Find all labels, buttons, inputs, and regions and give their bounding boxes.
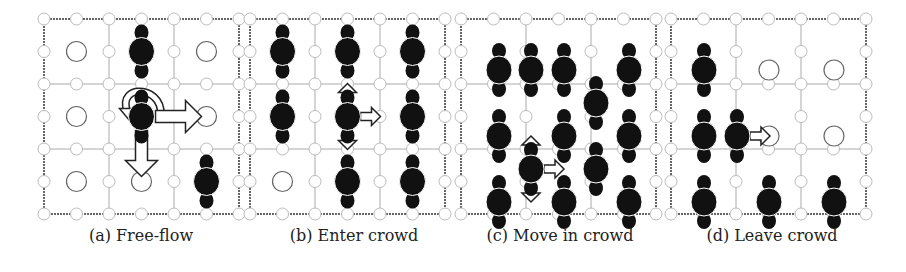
person-body <box>616 56 642 84</box>
node-circle <box>374 176 386 188</box>
node-circle <box>520 111 532 123</box>
node-circle <box>277 143 289 155</box>
node-circle <box>439 46 451 58</box>
node-circle <box>277 13 289 25</box>
node-circle <box>730 13 742 25</box>
person-body <box>616 122 642 150</box>
node-circle <box>795 46 807 58</box>
node-circle <box>233 111 245 123</box>
person-body <box>518 155 544 183</box>
node-circle <box>309 46 321 58</box>
empty-cell-circle <box>197 42 217 62</box>
node-circle <box>233 78 245 90</box>
node-circle <box>103 111 115 123</box>
node-circle <box>520 208 532 220</box>
node-circle <box>650 111 662 123</box>
node-circle <box>828 13 840 25</box>
node-circle <box>455 78 467 90</box>
node-circle <box>277 78 289 90</box>
empty-cell-circle <box>824 60 844 80</box>
node-circle <box>38 13 50 25</box>
caption-d: (d) Leave crowd <box>672 226 872 245</box>
node-circle <box>665 13 677 25</box>
node-circle <box>374 46 386 58</box>
node-circle <box>342 208 354 220</box>
person-body <box>616 188 642 216</box>
node-circle <box>795 111 807 123</box>
node-circle <box>38 143 50 155</box>
empty-cell-circle <box>759 60 779 80</box>
node-circle <box>618 13 630 25</box>
node-circle <box>455 143 467 155</box>
node-circle <box>38 46 50 58</box>
node-circle <box>795 208 807 220</box>
node-circle <box>860 176 872 188</box>
node-circle <box>244 176 256 188</box>
node-circle <box>650 78 662 90</box>
node-circle <box>38 78 50 90</box>
node-circle <box>439 111 451 123</box>
node-circle <box>309 111 321 123</box>
node-circle <box>650 46 662 58</box>
caption-a: (a) Free-flow <box>41 226 241 245</box>
node-circle <box>233 176 245 188</box>
node-circle <box>244 46 256 58</box>
panel-a <box>38 13 245 220</box>
node-circle <box>488 13 500 25</box>
person-icon <box>551 109 577 163</box>
person-icon <box>335 90 361 144</box>
node-circle <box>103 46 115 58</box>
node-circle <box>309 208 321 220</box>
node-circle <box>136 13 148 25</box>
person-body <box>129 103 155 131</box>
person-icon <box>691 175 717 229</box>
person-body <box>270 103 296 131</box>
node-circle <box>795 176 807 188</box>
node-circle <box>103 13 115 25</box>
node-circle <box>168 13 180 25</box>
person-icon <box>486 175 512 229</box>
node-circle <box>201 143 213 155</box>
node-circle <box>665 208 677 220</box>
person-icon <box>486 109 512 163</box>
node-circle <box>860 208 872 220</box>
person-body <box>551 188 577 216</box>
person-icon <box>400 155 426 209</box>
person-body <box>335 103 361 131</box>
person-body <box>583 155 609 183</box>
node-circle <box>244 13 256 25</box>
person-icon <box>724 109 750 163</box>
node-circle <box>730 176 742 188</box>
node-circle <box>860 78 872 90</box>
node-circle <box>103 143 115 155</box>
node-circle <box>650 13 662 25</box>
node-circle <box>374 208 386 220</box>
node-circle <box>103 208 115 220</box>
person-body <box>335 168 361 196</box>
empty-cell-circle <box>67 42 87 62</box>
person-icon <box>270 90 296 144</box>
node-circle <box>407 13 419 25</box>
node-circle <box>795 13 807 25</box>
node-circle <box>730 78 742 90</box>
empty-cell-circle <box>67 107 87 127</box>
person-body <box>583 89 609 117</box>
person-body <box>400 103 426 131</box>
person-icon <box>335 155 361 209</box>
node-circle <box>168 208 180 220</box>
person-body <box>486 188 512 216</box>
node-circle <box>244 143 256 155</box>
person-body <box>551 122 577 150</box>
panel-c <box>455 13 662 229</box>
node-circle <box>168 176 180 188</box>
node-circle <box>244 78 256 90</box>
person-icon <box>400 25 426 79</box>
arrow-right-icon <box>361 108 381 126</box>
node-circle <box>730 208 742 220</box>
node-circle <box>168 143 180 155</box>
person-body <box>486 122 512 150</box>
person-icon <box>821 175 847 229</box>
node-circle <box>233 46 245 58</box>
person-body <box>691 122 717 150</box>
node-circle <box>860 111 872 123</box>
